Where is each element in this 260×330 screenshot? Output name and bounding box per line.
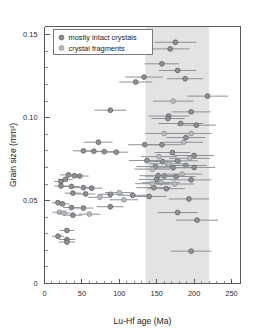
plot-legend: mostly intact crystalscrystal fragments [54,30,153,55]
data-point [192,165,197,170]
data-point [142,75,147,80]
data-point [81,206,86,211]
y-axis-title: Grain size (mm²) [8,123,18,187]
x-tick-label: 200 [188,289,200,298]
x-tick-label: 250 [225,289,237,298]
data-point [189,249,194,254]
data-point [175,68,180,73]
data-point [71,213,76,218]
data-point [150,167,155,172]
data-point [117,190,122,195]
x-tick-label: 0 [42,289,46,298]
data-point [56,200,61,205]
x-tick-label: 50 [78,289,86,298]
x-tick-label: 100 [113,289,125,298]
data-point [175,158,180,163]
data-point [59,184,64,189]
legend-label: crystal fragments [69,44,126,53]
data-point [194,123,199,128]
legend-marker [59,46,64,51]
data-point [187,156,192,161]
data-point [181,140,186,145]
legend-label: mostly intact crystals [69,33,137,42]
data-point [170,150,175,155]
y-tick-label: 0 [33,279,37,288]
data-point [77,174,82,179]
data-point [114,150,119,155]
data-point [160,61,165,66]
data-point [71,191,76,196]
data-point [183,135,188,140]
data-point [121,197,126,202]
data-point [62,211,67,216]
scatter-plot: 00.050.100.15050100150200250 Lu-Hf age (… [0,0,260,330]
data-point [69,184,74,189]
data-point [166,116,171,121]
data-point [180,172,185,177]
data-point [150,181,155,186]
data-point [173,40,178,45]
data-point [189,131,194,136]
data-point [189,109,194,114]
data-point [69,205,74,210]
y-tick-label: 0.05 [23,196,37,205]
data-point [133,80,138,85]
data-point [89,186,94,191]
data-point [154,177,159,182]
data-point [168,46,173,51]
data-point [183,76,188,81]
data-point [97,195,102,200]
data-point [186,197,191,202]
data-point [147,194,152,199]
data-point [96,140,101,145]
data-point [164,186,169,191]
data-point [65,228,70,233]
data-point [175,210,180,215]
data-point [145,158,150,163]
y-tick-label: 0.15 [23,30,37,39]
x-axis-title: Lu-Hf age (Ma) [114,316,172,326]
data-point [56,234,61,239]
data-point [166,161,171,166]
data-point [108,108,113,113]
data-point [108,204,113,209]
data-point [174,174,179,179]
data-point [160,142,165,147]
data-point [65,240,70,245]
data-point [189,177,194,182]
data-point [60,202,65,207]
data-point [83,192,88,197]
data-point [171,99,176,104]
data-point [87,212,92,217]
legend-marker [59,35,64,40]
data-point [172,182,177,187]
x-tick-label: 150 [151,289,163,298]
y-tick-label: 0.10 [23,113,37,122]
data-point [192,153,197,158]
data-point [57,210,62,215]
data-point [162,131,167,136]
figure-container: 00.050.100.15050100150200250 Lu-Hf age (… [0,0,260,330]
data-point [195,218,200,223]
data-point [205,94,210,99]
data-point [66,172,71,177]
data-point [157,154,162,159]
data-point [130,193,135,198]
